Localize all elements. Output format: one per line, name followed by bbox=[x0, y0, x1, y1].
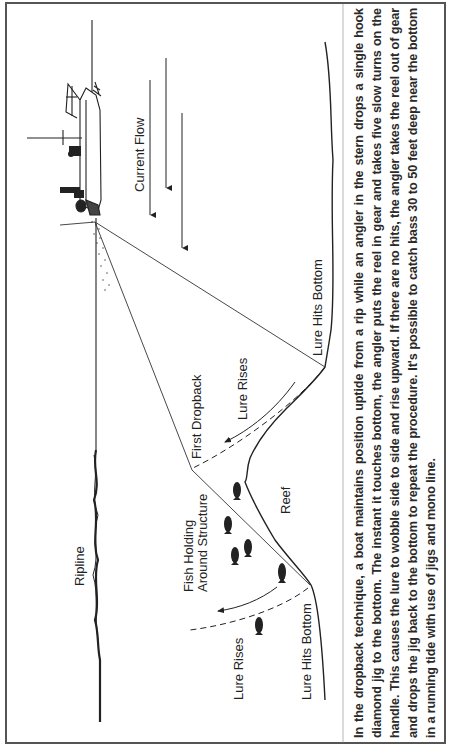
fish-icon bbox=[244, 539, 252, 557]
caption-text: In the dropback technique, a boat mainta… bbox=[350, 8, 440, 738]
label-first-dropback: First Dropback bbox=[190, 374, 204, 459]
fish-icon bbox=[278, 563, 286, 583]
fish-icon bbox=[231, 547, 239, 565]
label-lure-hits-bottom-bottom: Lure Hits Bottom bbox=[300, 603, 314, 700]
current-flow-arrows bbox=[150, 58, 182, 248]
boat-icon bbox=[27, 20, 101, 215]
label-lure-rises-bottom: Lure Rises bbox=[232, 638, 246, 700]
label-lure-hits-bottom-top: Lure Hits Bottom bbox=[311, 259, 325, 356]
caption: In the dropback technique, a boat mainta… bbox=[350, 8, 440, 738]
fish-icon bbox=[255, 617, 263, 635]
label-lure-rises-top: Lure Rises bbox=[236, 358, 250, 420]
label-current-flow: Current Flow bbox=[133, 118, 147, 192]
sea-bottom-reef bbox=[245, 42, 333, 700]
label-fish-holding: Fish Holding Around Structure bbox=[182, 494, 209, 592]
label-fish-holding-line2: Around Structure bbox=[195, 494, 210, 592]
lure-rises-arrow-2 bbox=[218, 587, 277, 611]
lure-path-2 bbox=[190, 588, 308, 630]
prop-wash bbox=[91, 221, 110, 290]
label-ripline: Ripline bbox=[73, 546, 87, 586]
label-reef: Reef bbox=[279, 487, 293, 514]
lure-path-1 bbox=[193, 367, 325, 468]
fish-icon bbox=[233, 482, 241, 500]
fish-icon bbox=[224, 516, 232, 534]
